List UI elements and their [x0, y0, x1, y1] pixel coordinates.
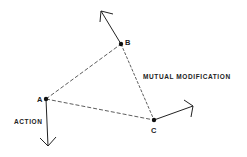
- edge-b-c: [121, 44, 154, 120]
- point-a: [44, 97, 48, 101]
- arrow-c: [154, 100, 193, 120]
- label-b: B: [125, 38, 131, 47]
- caption-mutual-modification: MUTUAL MODIFICATION: [143, 73, 231, 80]
- point-c: [152, 118, 156, 122]
- label-a: A: [37, 95, 43, 104]
- label-c: C: [151, 126, 157, 135]
- edge-a-c: [46, 99, 154, 120]
- edge-a-b: [46, 44, 121, 99]
- arrow-b: [100, 11, 121, 44]
- caption-action: ACTION: [14, 118, 43, 125]
- point-b: [119, 42, 123, 46]
- diagram-canvas: A B C MUTUAL MODIFICATION ACTION: [0, 0, 247, 157]
